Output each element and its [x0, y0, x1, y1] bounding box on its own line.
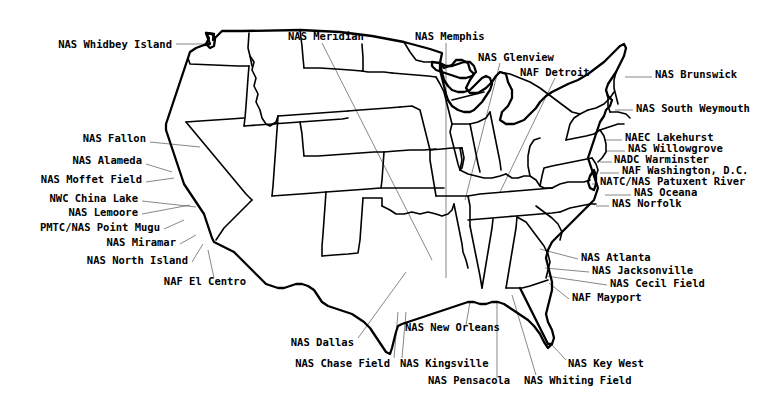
map-label-nas-cecil-field[interactable]: NAS Cecil Field	[610, 277, 705, 289]
map-label-nas-north-island[interactable]: NAS North Island	[87, 254, 188, 266]
map-label-nas-miramar[interactable]: NAS Miramar	[106, 236, 176, 248]
leader-line-nas-lemoore	[142, 205, 190, 214]
border-la-ms	[470, 226, 482, 288]
border-ma-ct-ri	[610, 112, 630, 118]
map-label-nas-kingsville[interactable]: NAS Kingsville	[400, 357, 489, 369]
border-nj-ny-pa	[598, 130, 606, 162]
border-ne-ia-mo	[400, 106, 430, 150]
leader-line-nas-cecil-field	[546, 276, 607, 285]
leader-line-nas-moffet-field	[146, 178, 174, 182]
border-ia-mn	[392, 73, 436, 77]
border-ga-fl	[506, 280, 548, 288]
naval-air-stations-map: NAS Whidbey IslandNAS MeridianNAS Memphi…	[0, 0, 781, 417]
map-label-nas-moffet-field[interactable]: NAS Moffet Field	[41, 173, 142, 185]
leader-line-nas-whiting-field	[512, 295, 536, 375]
leader-line-nas-kingsville	[402, 312, 406, 358]
border-nd-sd	[304, 68, 362, 71]
border-al-ga	[506, 217, 517, 288]
map-label-nas-memphis[interactable]: NAS Memphis	[415, 30, 485, 42]
map-label-naf-detroit[interactable]: NAF Detroit	[520, 66, 590, 78]
border-nv-ut	[272, 116, 278, 196]
leader-line-nas-north-island	[192, 244, 203, 262]
leader-line-nas-jacksonville	[545, 268, 589, 272]
border-wy-co	[300, 122, 304, 156]
border-ar-la-ms	[436, 196, 470, 226]
border-or-id	[244, 66, 249, 126]
map-label-nas-norfolk[interactable]: NAS Norfolk	[612, 197, 682, 209]
map-label-nas-dallas[interactable]: NAS Dallas	[291, 336, 354, 348]
border-nh-me	[614, 72, 618, 104]
border-or-ca	[186, 118, 244, 122]
leader-line-naf-el-centro	[208, 250, 214, 278]
us-state-outlines	[166, 30, 630, 354]
leader-line-nas-dallas	[358, 272, 406, 338]
us-national-outline	[166, 30, 626, 354]
border-ga-sc	[517, 217, 550, 278]
border-az-nm	[322, 192, 326, 256]
border-ky-oh-wv	[506, 174, 552, 188]
map-label-naf-mayport[interactable]: NAF Mayport	[572, 291, 642, 303]
leader-line-nas-alameda	[146, 164, 172, 172]
map-label-nas-glenview[interactable]: NAS Glenview	[478, 51, 554, 63]
leader-line-nas-glenview	[465, 63, 500, 200]
map-label-nas-pensacola[interactable]: NAS Pensacola	[428, 374, 510, 386]
border-mt-wy	[278, 111, 348, 116]
map-label-nas-meridian[interactable]: NAS Meridian	[288, 30, 364, 42]
map-label-nas-chase-field[interactable]: NAS Chase Field	[295, 357, 390, 369]
leader-line-pmtc-nas-point-mugu	[164, 220, 184, 229]
map-label-pmtc-nas-point-mugu[interactable]: PMTC/NAS Point Mugu	[40, 221, 160, 233]
border-ne-ks	[384, 149, 436, 152]
border-co-ks-ne	[304, 152, 384, 156]
border-nc-va	[560, 204, 596, 212]
map-label-nas-jacksonville[interactable]: NAS Jacksonville	[592, 264, 693, 276]
leader-line-nwc-china-lake	[142, 201, 196, 207]
border-ok-tx	[382, 204, 454, 216]
border-wa-id	[248, 33, 252, 66]
map-label-nas-whidbey-island[interactable]: NAS Whidbey Island	[58, 38, 172, 50]
border-ar-tx	[454, 204, 468, 268]
border-sd-mn-ia	[362, 71, 392, 73]
border-nd-mn	[362, 44, 363, 71]
border-ut-az	[272, 192, 326, 196]
border-il-mo-ky	[460, 170, 506, 178]
map-label-nas-key-west[interactable]: NAS Key West	[568, 357, 644, 369]
border-id-mt	[250, 56, 278, 126]
border-nm-tx	[322, 198, 363, 256]
border-wa-or	[188, 58, 249, 66]
map-label-nas-alameda[interactable]: NAS Alameda	[72, 154, 142, 166]
border-il-ia	[450, 124, 460, 170]
border-co-east	[381, 152, 384, 188]
border-mo-ar	[430, 150, 436, 196]
border-va-wv-md	[552, 180, 590, 188]
border-ca-az	[216, 200, 252, 240]
map-label-nas-fallon[interactable]: NAS Fallon	[83, 132, 146, 144]
border-ok-tx-panhandle	[363, 198, 382, 206]
map-label-nas-new-orleans[interactable]: NAS New Orleans	[405, 321, 500, 333]
border-wi-mi-upper	[452, 92, 484, 100]
leader-line-nas-miramar	[180, 235, 196, 244]
puget-sound-detail	[206, 33, 215, 48]
border-ut-wy-co	[272, 118, 348, 124]
border-tn-ky	[468, 188, 552, 196]
map-label-nwc-china-lake[interactable]: NWC China Lake	[49, 192, 138, 204]
border-ct-ny	[600, 124, 624, 130]
border-pa-oh	[528, 138, 540, 176]
border-ms-al	[482, 219, 493, 288]
map-label-nas-atlanta[interactable]: NAS Atlanta	[581, 251, 651, 263]
map-label-nas-lemoore[interactable]: NAS Lemoore	[68, 206, 138, 218]
map-label-naf-el-centro[interactable]: NAF El Centro	[164, 275, 246, 287]
leader-line-nas-fallon	[150, 142, 200, 147]
border-co-nm-az-ut-corner	[326, 188, 380, 192]
map-label-nas-whiting-field[interactable]: NAS Whiting Field	[524, 374, 631, 386]
map-label-nas-brunswick[interactable]: NAS Brunswick	[655, 68, 737, 80]
map-label-nas-south-weymouth[interactable]: NAS South Weymouth	[636, 102, 750, 114]
border-nv-ca	[186, 122, 252, 200]
leader-line-nas-key-west	[552, 345, 566, 360]
